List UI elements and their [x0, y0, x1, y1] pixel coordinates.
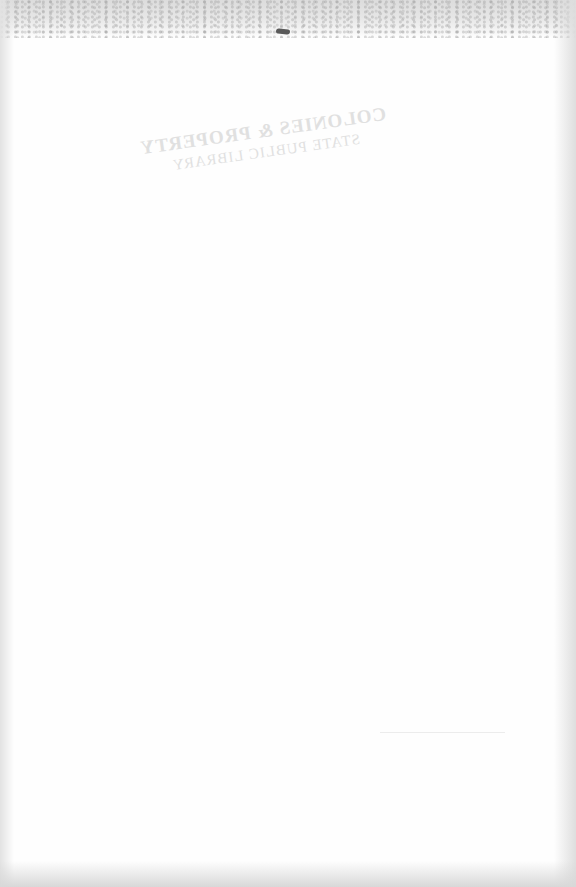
- faint-show-through-mark: [380, 732, 505, 733]
- scan-left-edge: [0, 0, 14, 887]
- document-page: COLONIES & PROPERTY STATE PUBLIC LIBRARY: [0, 0, 576, 887]
- scan-right-edge: [554, 0, 576, 887]
- scan-bottom-edge: [0, 861, 576, 887]
- show-through-text: COLONIES & PROPERTY STATE PUBLIC LIBRARY: [113, 99, 417, 191]
